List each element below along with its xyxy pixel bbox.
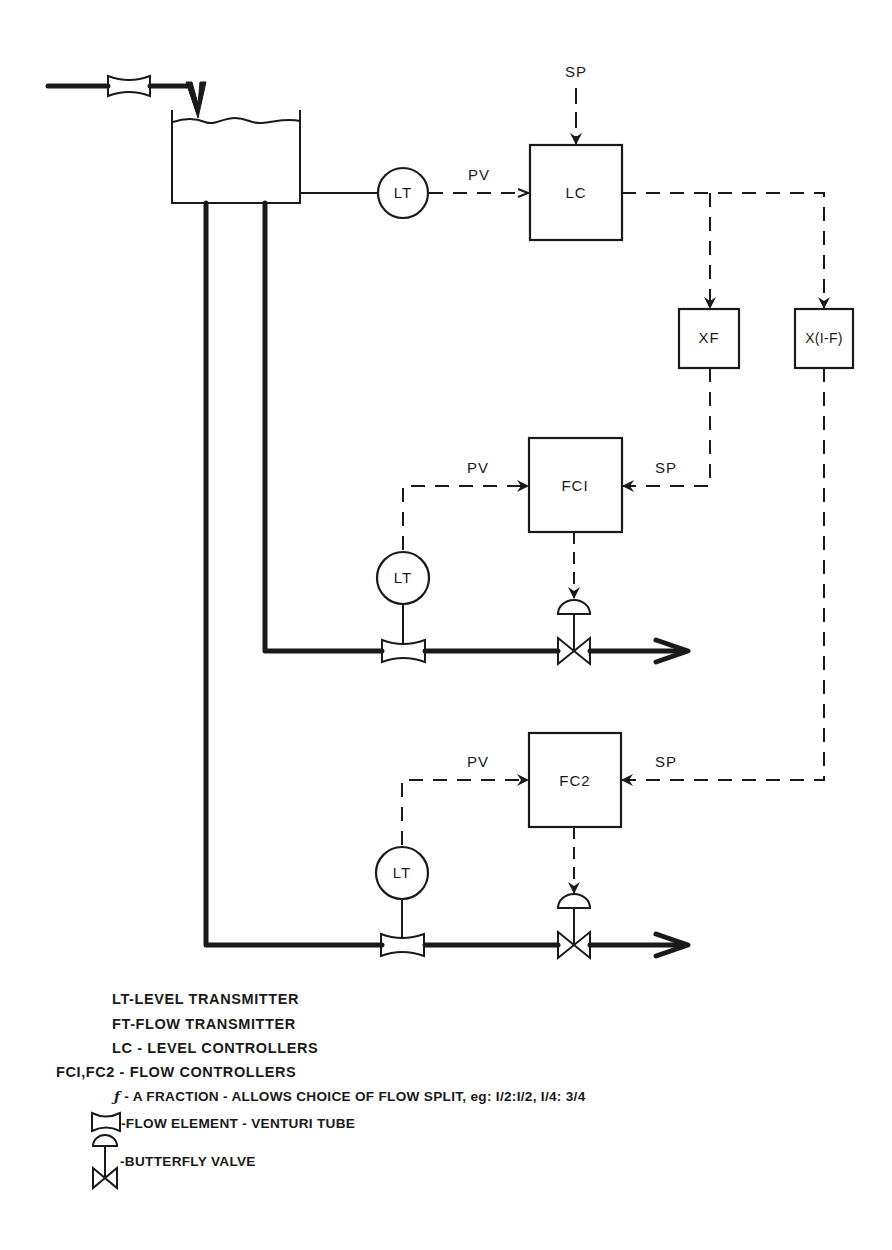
outlet-pipe-1 [265, 203, 688, 662]
level-transmitter-bottom: LT [376, 847, 428, 899]
butterfly-valve-icon [558, 894, 590, 958]
outlet-pipe-2 [206, 203, 688, 956]
legend-item-fraction: ƒ - A FRACTION - ALLOWS CHOICE OF FLOW S… [111, 1088, 586, 1104]
legend-item-ft: FT-FLOW TRANSMITTER [112, 1016, 296, 1032]
legend-item-lc: LC - LEVEL CONTROLLERS [112, 1040, 318, 1056]
svg-text:LT: LT [394, 569, 412, 586]
inlet-nozzle-icon [186, 82, 206, 118]
legend-item-fc: FCI,FC2 - FLOW CONTROLLERS [56, 1064, 296, 1080]
legend-item-lt: LT-LEVEL TRANSMITTER [112, 991, 299, 1007]
butterfly-valve-icon [558, 600, 590, 664]
fc2-pv-label: PV [467, 753, 489, 770]
level-controller: LC [530, 145, 622, 240]
process-control-diagram: LT PV SP LC XF X(I-F) SP SP FCI PV LT [0, 0, 892, 1250]
svg-text:LT: LT [394, 184, 412, 201]
fc2-sp-label: SP [655, 753, 677, 770]
flow-controller-1: FCI [529, 438, 622, 532]
fc1-pv-signal [403, 486, 528, 550]
svg-text:FC2: FC2 [559, 772, 590, 789]
legend-butterfly-valve-icon [93, 1135, 117, 1188]
venturi-icon [382, 640, 425, 662]
legend-venturi-icon [92, 1113, 120, 1131]
legend: LT-LEVEL TRANSMITTER FT-FLOW TRANSMITTER… [56, 991, 586, 1188]
tank [172, 110, 300, 203]
venturi-icon [381, 934, 424, 956]
svg-text:LC: LC [565, 184, 586, 201]
lc-sp-label: SP [565, 63, 587, 80]
legend-item-venturi: -FLOW ELEMENT - VENTURI TUBE [121, 1116, 355, 1131]
fc1-pv-label: PV [467, 459, 489, 476]
venturi-icon [108, 76, 150, 96]
fc2-sp-signal [622, 368, 824, 780]
fraction-block-x1f: X(I-F) [795, 309, 853, 368]
level-transmitter-top: LT [378, 168, 428, 218]
inlet-pipe [48, 76, 206, 118]
legend-item-valve: -BUTTERFLY VALVE [120, 1154, 256, 1169]
level-transmitter-mid: LT [377, 552, 429, 604]
fc1-sp-label: SP [655, 459, 677, 476]
svg-text:LT: LT [393, 864, 411, 881]
fc2-pv-signal [402, 780, 528, 845]
flow-controller-2: FC2 [529, 733, 621, 827]
svg-text:XF: XF [698, 329, 719, 346]
fraction-block-xf: XF [679, 309, 739, 368]
lc-output-signal-x1f [622, 193, 824, 308]
svg-text:FCI: FCI [561, 477, 588, 494]
lc-pv-label: PV [468, 166, 490, 183]
svg-text:X(I-F): X(I-F) [805, 330, 843, 346]
